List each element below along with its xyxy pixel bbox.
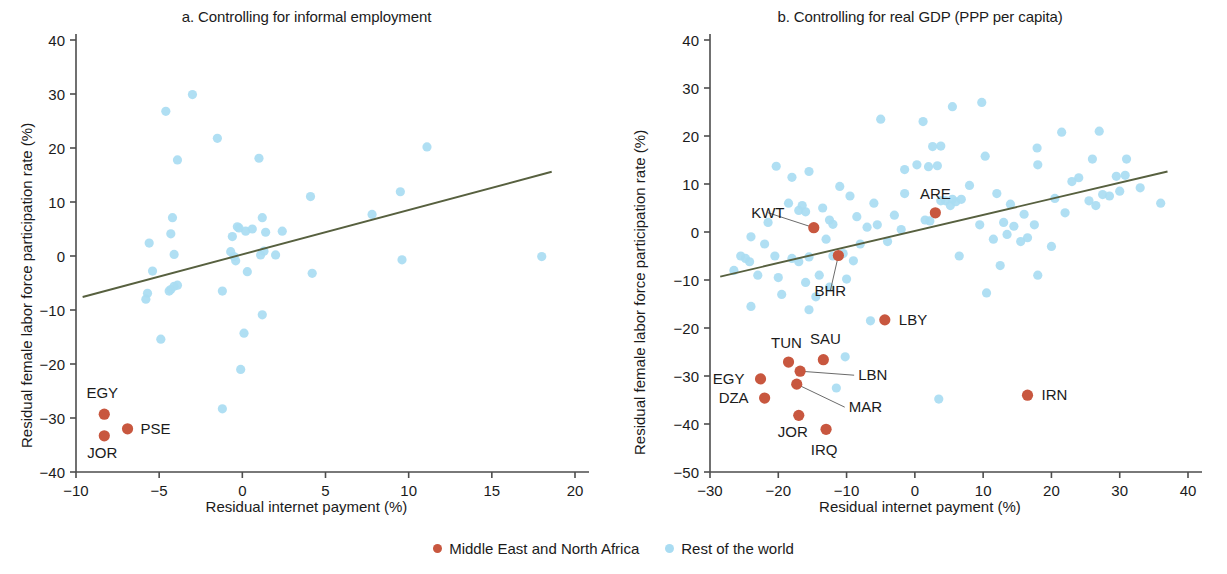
svg-text:15: 15: [483, 482, 500, 499]
svg-text:10: 10: [975, 482, 992, 499]
point-label-pse: PSE: [141, 420, 171, 437]
point-label-sau: SAU: [810, 330, 841, 347]
figure-legend: Middle East and North Africa Rest of the…: [0, 540, 1227, 557]
svg-text:−10: −10: [40, 302, 65, 319]
point-label-irn: IRN: [1042, 386, 1068, 403]
svg-text:10: 10: [48, 194, 65, 211]
panel-b-chart: b. Controlling for real GDP (PPP per cap…: [613, 0, 1227, 530]
point-label-dza: DZA: [719, 389, 749, 406]
legend-marker-mena-icon: [433, 544, 442, 553]
legend-label-mena: Middle East and North Africa: [449, 540, 639, 557]
svg-text:40: 40: [1180, 482, 1197, 499]
svg-text:−40: −40: [674, 416, 699, 433]
svg-text:−30: −30: [40, 410, 65, 427]
panel-a-chart: a. Controlling for informal employment R…: [0, 0, 613, 530]
svg-text:30: 30: [682, 80, 699, 97]
point-label-tun: TUN: [771, 334, 802, 351]
svg-text:−50: −50: [674, 464, 699, 481]
svg-text:10: 10: [400, 482, 417, 499]
svg-text:10: 10: [682, 176, 699, 193]
svg-text:−10: −10: [63, 482, 88, 499]
svg-text:20: 20: [567, 482, 584, 499]
svg-text:0: 0: [691, 224, 699, 241]
legend-item-rest-of-world: Rest of the world: [665, 540, 794, 557]
panel-b-plot-area: −50−40−30−20−10010203040−30−20−100102030…: [613, 0, 1227, 530]
point-label-jor: JOR: [778, 423, 808, 440]
svg-text:40: 40: [682, 32, 699, 49]
point-label-jor: JOR: [87, 444, 117, 461]
point-label-egy: EGY: [86, 384, 118, 401]
svg-text:20: 20: [682, 128, 699, 145]
svg-text:−30: −30: [697, 482, 722, 499]
svg-text:20: 20: [1043, 482, 1060, 499]
svg-text:−10: −10: [674, 272, 699, 289]
legend-marker-rest-of-world-icon: [665, 544, 674, 553]
svg-text:−30: −30: [674, 368, 699, 385]
svg-text:−5: −5: [151, 482, 168, 499]
svg-text:−20: −20: [40, 356, 65, 373]
point-label-lby: LBY: [899, 311, 927, 328]
panel-a-plot-area: −40−30−20−10010203040−10−505101520EGYJOR…: [0, 0, 613, 530]
svg-text:0: 0: [911, 482, 919, 499]
legend-label-rest-of-world: Rest of the world: [681, 540, 794, 557]
svg-text:20: 20: [48, 140, 65, 157]
legend-item-mena: Middle East and North Africa: [433, 540, 639, 557]
point-label-are: ARE: [920, 185, 951, 202]
svg-text:−20: −20: [766, 482, 791, 499]
point-label-bhr: BHR: [815, 282, 847, 299]
svg-text:40: 40: [48, 32, 65, 49]
svg-text:30: 30: [1111, 482, 1128, 499]
svg-text:−40: −40: [40, 464, 65, 481]
svg-text:30: 30: [48, 86, 65, 103]
point-label-egy: EGY: [713, 370, 745, 387]
svg-text:0: 0: [238, 482, 246, 499]
svg-text:5: 5: [321, 482, 329, 499]
point-label-mar: MAR: [849, 398, 883, 415]
svg-text:0: 0: [57, 248, 65, 265]
point-label-kwt: KWT: [751, 204, 784, 221]
svg-text:−10: −10: [834, 482, 859, 499]
point-label-lbn: LBN: [858, 366, 887, 383]
point-label-irq: IRQ: [811, 441, 838, 458]
svg-text:−20: −20: [674, 320, 699, 337]
